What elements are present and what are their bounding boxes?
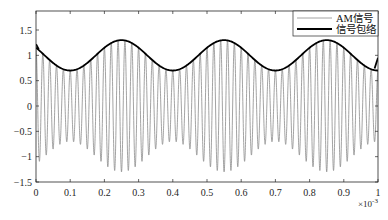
x-tick-label: 0.4	[167, 187, 180, 198]
x-tick-label: 0.6	[235, 187, 248, 198]
y-tick-label: 0.5	[20, 75, 33, 86]
x-tick-label: 0.1	[64, 187, 77, 198]
y-tick-label: −1.5	[14, 177, 32, 188]
x-tick-label: 0.2	[98, 187, 111, 198]
legend: AM信号 信号包络	[293, 11, 378, 36]
legend-label-am: AM信号	[336, 13, 373, 24]
x-tick-label: 0.3	[132, 187, 145, 198]
x-tick-label: 0.9	[338, 187, 351, 198]
am-signal-chart: 00.10.20.30.40.50.60.70.80.91 −1.5−1−0.5…	[0, 0, 388, 220]
x-tick-label: 0.7	[269, 187, 282, 198]
y-tick-label: −0.5	[14, 126, 32, 137]
x-tick-label: 0.5	[201, 187, 214, 198]
y-tick-label: −1	[21, 151, 32, 162]
x-tick-label: 0	[34, 187, 39, 198]
x-tick-label: 0.8	[303, 187, 316, 198]
legend-label-envelope: 信号包络	[336, 23, 377, 35]
y-tick-label: 1	[27, 50, 32, 61]
y-tick-label: 1.5	[20, 25, 33, 36]
y-tick-label: 0	[27, 101, 32, 112]
